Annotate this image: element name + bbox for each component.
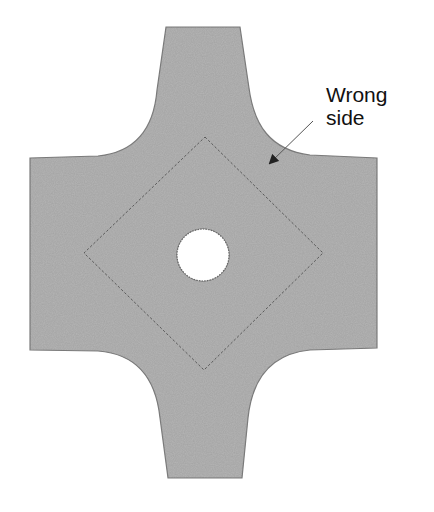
annotation-label: Wrong side <box>326 83 387 129</box>
annotation-line-2: side <box>326 106 387 129</box>
cross-shape-diagram <box>0 0 434 512</box>
annotation-line-1: Wrong <box>326 83 387 106</box>
center-hole <box>177 229 229 281</box>
